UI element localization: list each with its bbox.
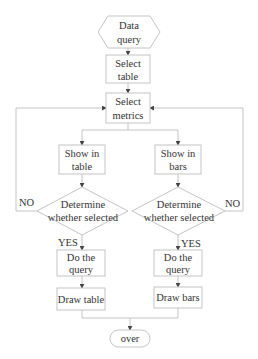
diamond-shape <box>37 187 128 235</box>
node-label-line2: bars <box>169 161 187 172</box>
flowchart: Data query Select table Select metrics S… <box>0 0 258 359</box>
edge-label-right-yes: YES <box>181 238 201 249</box>
node-select-table: Select table <box>106 55 150 83</box>
node-query-left: Do the query <box>57 250 105 276</box>
node-draw-table: Draw table <box>57 288 105 310</box>
edges <box>16 48 243 330</box>
node-label-line2: table <box>72 161 93 172</box>
node-label-line1: Show in <box>161 148 196 159</box>
node-start: Data query <box>98 16 160 48</box>
node-label-line1: Data <box>119 20 139 31</box>
diamond-shape <box>132 187 225 235</box>
node-label-line2: query <box>117 34 142 45</box>
node-label-line1: Determine <box>61 199 106 210</box>
node-query-right: Do the query <box>154 250 202 276</box>
node-label-line2: whether selected <box>144 212 215 223</box>
node-label: Draw table <box>58 294 105 305</box>
node-draw-bars: Draw bars <box>154 287 202 308</box>
node-label-line2: query <box>166 264 191 275</box>
node-label-line2: table <box>118 71 139 82</box>
node-select-metrics: Select metrics <box>106 93 150 123</box>
node-label-line1: Select <box>115 58 141 69</box>
edge-label-right-no: NO <box>225 198 241 209</box>
node-label: over <box>121 333 140 344</box>
edge-to-show-bars <box>128 130 178 145</box>
edge-label-left-no: NO <box>19 197 35 208</box>
node-label-line1: Select <box>115 96 141 107</box>
node-decide-left: Determine whether selected <box>37 187 128 235</box>
node-label-line2: query <box>69 264 94 275</box>
node-label-line1: Do the <box>164 252 193 263</box>
edge-to-show-table <box>82 130 128 145</box>
node-decide-right: Determine whether selected <box>132 187 225 235</box>
node-label-line1: Do the <box>67 252 96 263</box>
node-show-table: Show in table <box>59 145 105 174</box>
node-label-line1: Determine <box>157 199 202 210</box>
node-label: Draw bars <box>156 292 199 303</box>
node-show-bars: Show in bars <box>155 145 201 174</box>
node-label-line2: whether selected <box>48 212 119 223</box>
node-end: over <box>110 330 150 347</box>
node-label-line1: Show in <box>65 148 100 159</box>
edge-label-left-yes: YES <box>58 237 78 248</box>
node-label-line2: metrics <box>113 110 144 121</box>
